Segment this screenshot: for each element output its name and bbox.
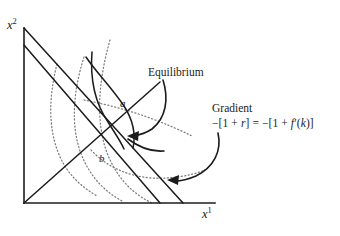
x-axis-label: x1 (202, 205, 212, 222)
equilibrium-callout-label: Equilibrium (148, 66, 204, 80)
point-label-a: a (120, 97, 126, 110)
gradient-arrow-head (167, 175, 179, 185)
point-label-b: b (99, 152, 105, 165)
gradient-callout-title: Gradient (212, 102, 252, 114)
equilibrium-arrow (127, 80, 166, 141)
equilibrium-arrow-curve (133, 80, 166, 136)
gradient-callout-label: Gradient −[1 + r] = −[1 + f′(k)] (212, 102, 314, 130)
production-ray (24, 82, 160, 203)
indifference-curve-group (51, 40, 205, 203)
gradient-arrow (167, 133, 219, 185)
production-curve-group (86, 52, 134, 149)
y-axis-label: x2 (7, 16, 17, 33)
figure-root: x2 x1 a b Equilibrium Gradient −[1 + r] … (0, 0, 340, 236)
gradient-arrow-curve (175, 133, 219, 181)
gradient-callout-formula: −[1 + r] = −[1 + f′(k)] (212, 117, 314, 131)
production-curve-lower (86, 57, 134, 148)
